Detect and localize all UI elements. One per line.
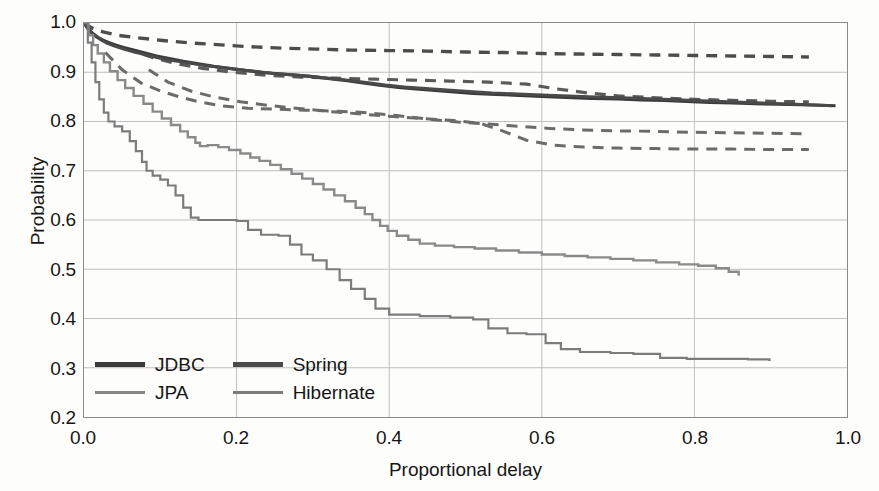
y-tick-label: 0.4 xyxy=(6,309,76,328)
y-tick-label: 0.3 xyxy=(6,359,76,378)
legend-label: JDBC xyxy=(155,355,205,374)
legend-label: Spring xyxy=(293,355,348,374)
legend-entry-jpa[interactable]: JPA xyxy=(95,380,205,404)
legend-entry-jdbc[interactable]: JDBC xyxy=(95,352,205,376)
x-tick-label: 0.0 xyxy=(53,428,113,447)
y-tick-label: 0.9 xyxy=(6,62,76,81)
y-tick-label: 0.2 xyxy=(6,408,76,427)
chart-figure: Probability 0.20.30.40.50.60.70.80.91.0 … xyxy=(0,0,879,491)
x-tick-label: 0.2 xyxy=(206,428,266,447)
legend-label: Hibernate xyxy=(293,383,375,402)
legend-label: JPA xyxy=(155,383,188,402)
x-tick-label: 0.6 xyxy=(512,428,572,447)
x-axis-label: Proportional delay xyxy=(83,459,848,481)
y-axis-ticks: 0.20.30.40.50.60.70.80.91.0 xyxy=(0,22,76,418)
x-tick-label: 0.8 xyxy=(665,428,725,447)
band-curve-jdbc-upper xyxy=(84,23,809,57)
legend-entry-spring[interactable]: Spring xyxy=(233,352,375,376)
y-tick-label: 0.8 xyxy=(6,111,76,130)
legend-swatch-jdbc xyxy=(95,362,145,367)
chart-legend: JDBCSpringJPAHibernate xyxy=(95,352,375,404)
y-tick-label: 0.5 xyxy=(6,260,76,279)
series-curves xyxy=(84,23,836,360)
y-tick-label: 1.0 xyxy=(6,12,76,31)
legend-swatch-spring xyxy=(233,362,283,367)
y-tick-label: 0.7 xyxy=(6,161,76,180)
legend-entry-hibernate[interactable]: Hibernate xyxy=(233,380,375,404)
x-tick-label: 0.4 xyxy=(359,428,419,447)
x-axis-ticks: 0.00.20.40.60.81.0 xyxy=(83,428,848,452)
y-tick-label: 0.6 xyxy=(6,210,76,229)
confidence-band-curves xyxy=(84,23,809,150)
series-curve-hibernate xyxy=(84,23,771,360)
x-tick-label: 1.0 xyxy=(818,428,878,447)
legend-swatch-jpa xyxy=(95,391,145,394)
legend-swatch-hibernate xyxy=(233,391,283,394)
